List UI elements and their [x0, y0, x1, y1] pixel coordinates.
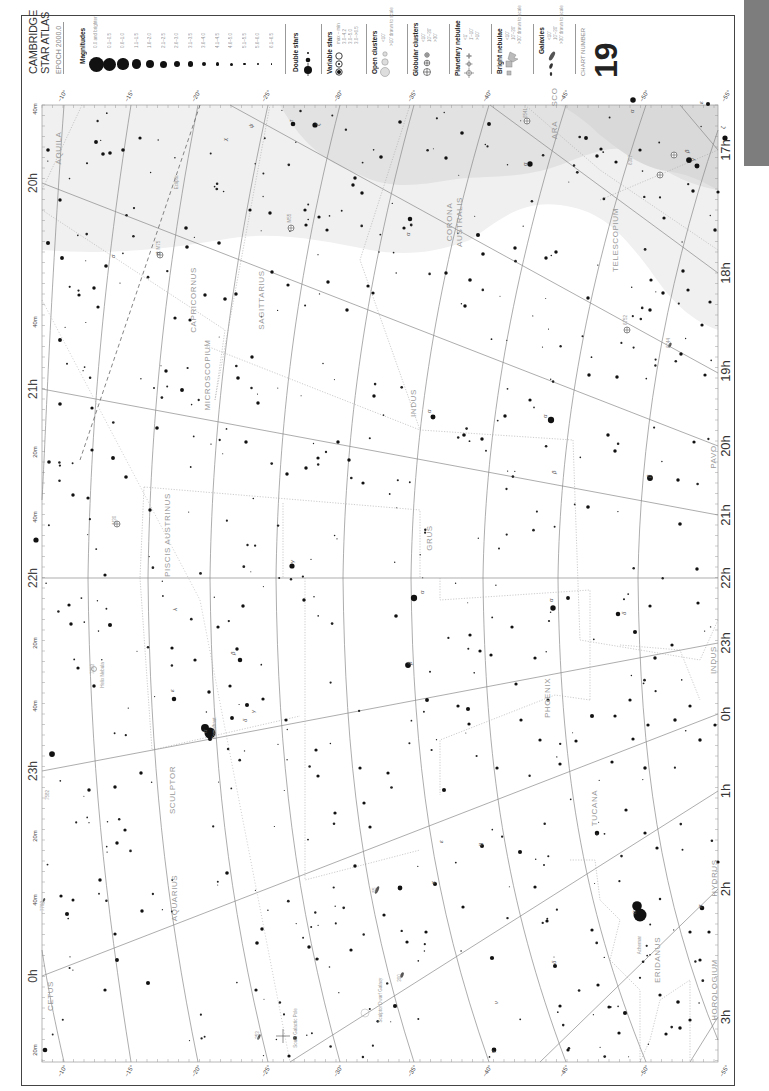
star — [190, 466, 192, 468]
star-designation: θ — [155, 251, 161, 255]
star — [591, 356, 593, 358]
star-designation: σ — [110, 254, 116, 258]
star — [84, 366, 86, 368]
star — [361, 481, 364, 484]
star-map[interactable]: 17h18h19h20h21h22h23h0h1h2h3h20h40m40m21… — [0, 0, 769, 1091]
star — [345, 308, 348, 311]
star — [331, 114, 333, 116]
ra-label: 23h — [26, 761, 40, 781]
star — [519, 1018, 521, 1020]
star — [274, 826, 275, 827]
star — [295, 142, 296, 143]
star — [566, 596, 570, 600]
star — [392, 203, 393, 204]
star — [478, 649, 481, 652]
star — [313, 596, 315, 598]
star — [442, 788, 446, 792]
star — [104, 264, 108, 268]
star — [262, 196, 263, 197]
star — [372, 1045, 374, 1047]
star — [401, 930, 403, 932]
star — [586, 505, 590, 509]
star — [345, 129, 347, 131]
star — [287, 1054, 290, 1057]
star — [597, 264, 598, 265]
star — [676, 478, 679, 481]
star — [113, 932, 116, 935]
star — [640, 318, 643, 321]
star — [710, 359, 712, 361]
dec-label: −40° — [482, 1064, 494, 1078]
star — [360, 225, 363, 228]
star — [618, 880, 620, 882]
star-designation: β — [407, 661, 413, 666]
star — [482, 289, 485, 292]
star — [506, 340, 507, 341]
star — [58, 402, 62, 406]
star — [58, 338, 62, 342]
star — [616, 612, 621, 617]
star — [114, 732, 116, 734]
star — [189, 1040, 190, 1041]
star — [308, 765, 311, 768]
star — [254, 988, 257, 991]
star — [411, 720, 413, 722]
star — [226, 428, 228, 430]
star — [255, 941, 259, 945]
star-designation: δ — [242, 718, 248, 722]
star — [639, 977, 641, 979]
dec-label: −50° — [639, 89, 651, 103]
star — [228, 684, 231, 687]
star — [424, 950, 425, 951]
star — [314, 911, 316, 913]
star-designation: β — [230, 651, 236, 656]
star — [617, 511, 618, 512]
star — [122, 252, 124, 254]
ra-label: 0h — [26, 969, 40, 982]
star — [659, 898, 661, 900]
star — [655, 846, 658, 849]
star — [374, 383, 377, 386]
star — [710, 215, 711, 216]
star — [543, 823, 546, 826]
star — [397, 479, 399, 481]
star — [444, 156, 447, 159]
star — [559, 345, 561, 347]
star — [157, 139, 158, 140]
star — [132, 235, 135, 238]
star — [238, 759, 241, 762]
star — [87, 788, 90, 791]
star — [162, 595, 164, 597]
star-designation: α — [697, 904, 703, 908]
star — [119, 283, 120, 284]
star — [230, 716, 234, 720]
star — [236, 982, 238, 984]
star — [59, 464, 61, 466]
star — [390, 786, 393, 789]
star — [301, 395, 302, 396]
star — [469, 440, 471, 442]
star — [342, 906, 345, 909]
star — [545, 298, 546, 299]
ra-label: 20m — [32, 1044, 38, 1056]
star — [623, 598, 625, 600]
star — [602, 151, 604, 153]
star — [398, 120, 402, 124]
star — [250, 571, 251, 572]
star — [579, 457, 581, 459]
atlas-page: CAMBRIDGE STAR ATLAS EPOCH 2000.0 Magnit… — [0, 0, 769, 1091]
star — [371, 291, 374, 294]
star — [568, 181, 569, 182]
star — [166, 386, 168, 388]
star — [245, 703, 249, 707]
star — [115, 841, 118, 844]
star — [558, 1004, 561, 1007]
star — [587, 373, 590, 376]
star-designation: ζ — [720, 125, 727, 129]
dec-label: −45° — [559, 89, 571, 103]
star — [59, 894, 62, 897]
star — [648, 604, 651, 607]
star — [703, 373, 706, 376]
star — [118, 818, 120, 820]
star — [149, 556, 150, 557]
